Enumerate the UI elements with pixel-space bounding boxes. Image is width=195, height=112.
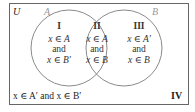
- universe-label: U: [13, 7, 20, 17]
- region-i-line1: x ∈ A: [44, 34, 74, 45]
- set-b-label: B: [152, 7, 158, 17]
- region-ii-line2: and: [82, 44, 112, 55]
- region-iii-line2: and: [123, 44, 155, 55]
- region-ii: II x ∈ A and x ∈ B: [82, 21, 112, 65]
- region-i-line2: and: [44, 44, 74, 55]
- region-i: I x ∈ A and x ∈ B′: [44, 21, 74, 65]
- region-iii: III x ∈ A′ and x ∈ B: [123, 21, 155, 65]
- region-i-numeral: I: [44, 21, 74, 32]
- region-iv-numeral: IV: [171, 91, 182, 101]
- region-ii-line3: x ∈ B: [82, 55, 112, 66]
- region-i-line3: x ∈ B′: [44, 55, 74, 66]
- region-ii-numeral: II: [82, 21, 112, 32]
- region-iii-line3: x ∈ B: [123, 55, 155, 66]
- region-iii-numeral: III: [123, 21, 155, 32]
- region-iii-line1: x ∈ A′: [123, 34, 155, 45]
- set-a-label: A: [44, 7, 50, 17]
- region-iv-description: x ∈ A′ and x ∈ B′: [13, 91, 81, 101]
- region-ii-line1: x ∈ A: [82, 34, 112, 45]
